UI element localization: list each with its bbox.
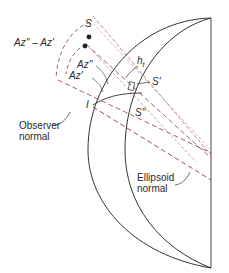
s-marker-box [128,82,134,91]
label-az-diff: Az'' – Az' [14,37,54,48]
horizon-arc [93,93,142,105]
label-ellipsoid-normal: Ellipsoidnormal [137,172,174,194]
label-az-single: Az' [69,70,83,81]
label-I: I [86,99,89,110]
ellipsoid-normal-leader [175,172,190,185]
ellipsoid-normal-line [93,107,211,180]
point-S-lower [83,44,88,49]
label-S-prime: S' [152,76,161,87]
outer-ellipsoid-arc [88,18,211,268]
label-height: ht [137,55,145,70]
label-S-double: S'' [135,107,146,118]
label-az-double: Az'' [77,59,93,70]
label-observer-normal: Observernormal [19,120,60,142]
sight-line-2 [90,20,211,150]
point-S [87,35,92,40]
label-S: S [85,18,92,29]
